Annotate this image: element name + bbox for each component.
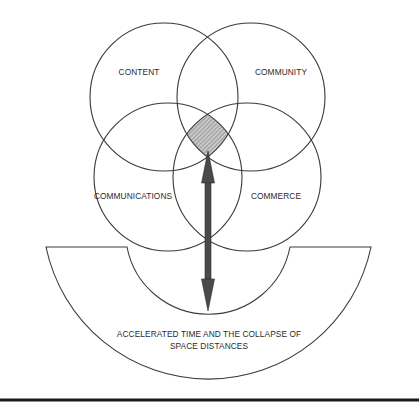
central-intersection [173, 103, 321, 251]
label-commerce: COMMERCE [251, 191, 301, 201]
bottom-rule-divider [0, 399, 419, 402]
label-content: CONTENT [119, 67, 160, 77]
venn-diagram: CONTENT COMMUNITY COMMUNICATIONS COMMERC… [0, 0, 419, 408]
label-community: COMMUNITY [255, 67, 307, 77]
label-communications: COMMUNICATIONS [94, 191, 173, 201]
base-label-line1: ACCELERATED TIME AND THE COLLAPSE OF [117, 329, 301, 339]
base-label-line2: SPACE DISTANCES [170, 341, 249, 351]
double-arrow-icon [202, 151, 215, 311]
